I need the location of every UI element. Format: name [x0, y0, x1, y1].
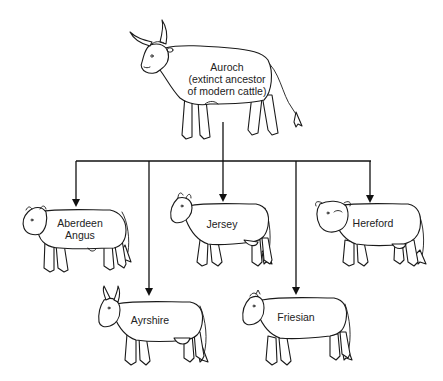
label-line: (extinct ancestor — [188, 73, 267, 85]
arrow-icon — [366, 195, 374, 203]
label-ayrshire: Ayrshire — [131, 314, 169, 326]
label-line: Ayrshire — [131, 314, 169, 326]
label-line: Auroch — [188, 61, 267, 73]
label-hereford: Hereford — [353, 217, 394, 229]
label-line: Angus — [57, 229, 103, 241]
label-line: of modern cattle) — [188, 85, 267, 97]
label-jersey: Jersey — [207, 218, 238, 230]
friesian-drawing — [243, 290, 352, 365]
diagram-canvas — [0, 0, 443, 381]
arrow-icon — [219, 194, 227, 202]
hereford-drawing — [315, 201, 426, 266]
label-line: Jersey — [207, 218, 238, 230]
cattle-ancestry-diagram: Auroch (extinct ancestor of modern cattl… — [0, 0, 443, 381]
label-line: Aberdeen — [57, 217, 103, 229]
label-auroch: Auroch (extinct ancestor of modern cattl… — [188, 61, 267, 97]
arrow-icon — [72, 199, 80, 207]
label-line: Friesian — [277, 311, 314, 323]
arrow-icon — [145, 288, 153, 296]
arrow-icon — [292, 287, 300, 295]
label-line: Hereford — [353, 217, 394, 229]
label-friesian: Friesian — [277, 311, 314, 323]
label-aberdeen-angus: Aberdeen Angus — [57, 217, 103, 241]
